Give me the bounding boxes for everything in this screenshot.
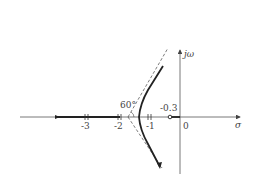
angle-arc (131, 112, 134, 117)
tick-label-minus-3: -3 (81, 122, 90, 131)
origin-label: 0 (183, 122, 189, 131)
locus-arrow-lower (157, 162, 162, 169)
zero-marker (168, 115, 172, 119)
zero-label: -0.3 (160, 104, 177, 113)
real-axis-label: σ (235, 121, 241, 130)
angle-label: 60° (120, 101, 136, 110)
root-locus-plot (0, 0, 256, 184)
tick-label-minus-1: -1 (146, 122, 155, 131)
root-locus-diagram: -3 -2 -1 0 -0.3 60° jω σ (0, 0, 256, 184)
imag-axis-label: jω (184, 50, 194, 59)
locus-arrow-left (55, 115, 60, 119)
tick-label-minus-2: -2 (114, 122, 123, 131)
